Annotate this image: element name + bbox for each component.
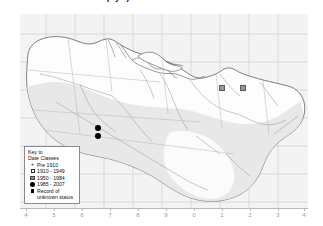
gray-square-marker-icon [28, 176, 37, 180]
axis-tick-label: 4 [24, 212, 27, 218]
axis-tick-label: 1 [220, 212, 223, 218]
legend-item-1910-1949: 1910 - 1949 [28, 168, 77, 175]
axis-tick [250, 208, 251, 211]
axis-tick-label: 5 [52, 212, 55, 218]
map-legend: Key to Date Classes + Pre 1910 1910 - 19… [24, 146, 80, 204]
axis-tick [222, 208, 223, 211]
page-title-clip: Pontederiaceae Indicata (Ey...) [0, 0, 323, 9]
plus-marker-icon: + [28, 162, 37, 167]
legend-item-label: 1985 - 2007 [37, 181, 65, 187]
axis-tick [110, 208, 111, 211]
record-marker-1985-2007 [95, 133, 101, 139]
legend-item-label: Record of [37, 188, 60, 194]
open-square-marker-icon [28, 169, 37, 173]
legend-item-pre-1910: + Pre 1910 [28, 161, 77, 168]
axis-tick [194, 208, 195, 211]
axis-tick-label: 2 [248, 212, 251, 218]
legend-item-1950-1984: 1950 - 1984 [28, 175, 77, 182]
axis-tick [82, 208, 83, 211]
axis-tick-label: 4 [302, 212, 305, 218]
axis-tick [138, 208, 139, 211]
legend-item-label: 1910 - 1949 [37, 168, 65, 174]
axis-tick-label: 7 [108, 212, 111, 218]
black-circle-marker-icon [28, 182, 37, 187]
record-marker-1950-1984 [240, 85, 246, 91]
axis-tick [54, 208, 55, 211]
record-marker-1950-1984 [219, 85, 225, 91]
axis-tick-label: 3 [276, 212, 279, 218]
legend-item-1985-2007: 1985 - 2007 [28, 181, 77, 188]
axis-tick-label: 8 [136, 212, 139, 218]
map-x-axis: 4 5 6 7 8 9 0 1 2 3 4 [20, 208, 308, 226]
axis-tick [304, 208, 305, 211]
axis-line [20, 208, 308, 209]
axis-tick-label: 9 [164, 212, 167, 218]
axis-tick [278, 208, 279, 211]
legend-item-unknown-status-line2: unknown status [28, 194, 77, 200]
axis-tick-label: 0 [192, 212, 195, 218]
record-marker-1985-2007 [95, 125, 101, 131]
legend-item-label: Pre 1910 [37, 162, 58, 168]
small-black-square-marker-icon [28, 189, 37, 192]
page-title: Pontederiaceae Indicata (Ey...) [3, 0, 129, 2]
legend-item-label: 1950 - 1984 [37, 175, 65, 181]
legend-item-unknown-status: Record of [28, 188, 77, 195]
axis-tick [166, 208, 167, 211]
axis-tick-label: 6 [80, 212, 83, 218]
axis-tick [26, 208, 27, 211]
